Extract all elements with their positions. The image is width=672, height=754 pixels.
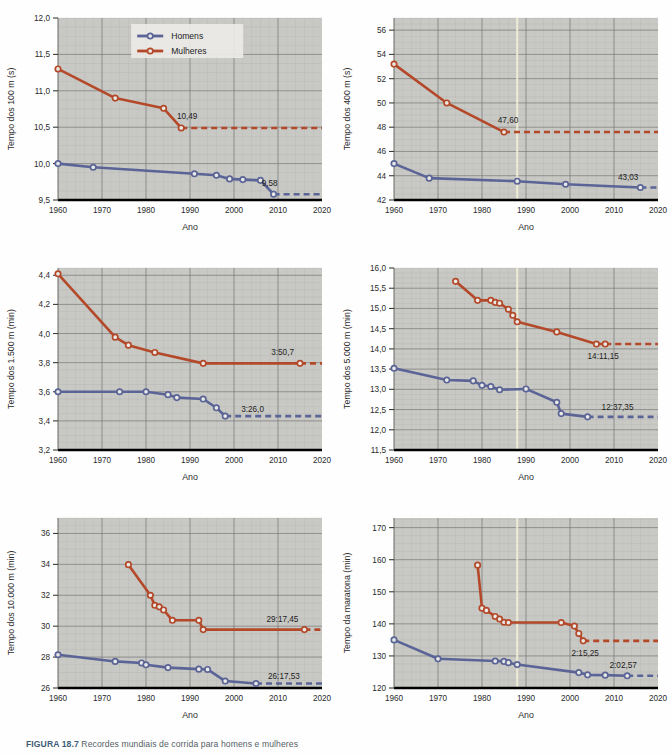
y-tick-label: 3,8 (39, 359, 51, 368)
data-point (179, 125, 184, 130)
data-point (391, 61, 396, 66)
data-point (143, 662, 148, 667)
data-point (161, 607, 166, 612)
record-annotation: 3:26,0 (241, 405, 264, 414)
data-point (196, 618, 201, 623)
data-point (170, 618, 175, 623)
x-tick-label: 1990 (181, 206, 200, 215)
data-point (196, 666, 201, 671)
record-annotation: 43,03 (618, 173, 639, 182)
legend-label: Homens (171, 31, 203, 41)
chart-1500m: 3,23,43,63,84,04,24,41960197019801990200… (0, 252, 336, 502)
record-annotation: 3:50,7 (271, 348, 294, 357)
y-tick-label: 11,5 (35, 50, 51, 59)
x-tick-label: 2000 (561, 206, 580, 215)
data-point (223, 678, 228, 683)
data-point (475, 562, 480, 567)
x-tick-label: 1980 (473, 694, 492, 703)
data-point (493, 658, 498, 663)
data-point (55, 389, 60, 394)
data-point (240, 177, 245, 182)
data-point (559, 620, 564, 625)
y-tick-label: 170 (372, 524, 386, 533)
data-point (126, 342, 131, 347)
data-point (91, 165, 96, 170)
data-point (126, 562, 131, 567)
x-tick-label: 1970 (429, 456, 448, 465)
data-point (161, 106, 166, 111)
y-tick-label: 56 (377, 26, 387, 35)
data-point (113, 95, 118, 100)
x-tick-label: 1990 (181, 694, 200, 703)
data-point (165, 665, 170, 670)
data-point (55, 66, 60, 71)
data-point (506, 660, 511, 665)
y-tick-label: 10,5 (34, 123, 50, 132)
y-tick-label: 14,5 (370, 325, 386, 334)
x-tick-label: 2000 (225, 694, 244, 703)
data-point (554, 329, 559, 334)
data-point (506, 307, 511, 312)
x-tick-label: 1990 (517, 456, 536, 465)
data-point (271, 191, 276, 196)
y-tick-label: 26 (41, 684, 51, 693)
x-tick-label: 2020 (313, 206, 332, 215)
chart-10000m: 2628303234361960197019801990200020102020… (0, 502, 336, 736)
data-point (201, 361, 206, 366)
chart-cell-marathon: 1201301401501601701960197019801990200020… (336, 502, 672, 736)
data-point (143, 389, 148, 394)
record-annotation: 10,49 (177, 112, 198, 121)
x-axis-label: Ano (518, 472, 534, 482)
y-tick-label: 46 (377, 147, 387, 156)
y-tick-label: 3,6 (39, 388, 51, 397)
data-point (427, 175, 432, 180)
y-tick-label: 13,5 (370, 365, 386, 374)
x-tick-labels: 1960197019801990200020102020 (49, 456, 332, 465)
figure-container: 9,510,010,511,011,512,019601970198019902… (0, 0, 672, 754)
y-tick-label: 130 (372, 652, 386, 661)
legend-label: Mulheres (171, 46, 206, 56)
y-tick-label: 4,2 (39, 300, 51, 309)
x-tick-label: 1980 (137, 206, 156, 215)
data-point (585, 414, 590, 419)
data-point (117, 389, 122, 394)
y-tick-label: 52 (377, 75, 387, 84)
x-tick-label: 1990 (181, 456, 200, 465)
x-tick-label: 1970 (93, 694, 112, 703)
y-axis-label: Tempo da maratona (min) (342, 553, 352, 654)
record-annotation: 2:15,25 (572, 649, 600, 658)
data-point (113, 334, 118, 339)
chart-cell-100m: 9,510,010,511,011,512,019601970198019902… (0, 0, 336, 252)
record-annotation: 12:37,35 (602, 403, 634, 412)
record-annotation: 2:02,57 (610, 661, 638, 670)
data-point (471, 378, 476, 383)
data-point (563, 182, 568, 187)
y-tick-label: 4,0 (39, 330, 51, 339)
chart-grid: 9,510,010,511,011,512,019601970198019902… (0, 0, 672, 736)
data-point (475, 298, 480, 303)
data-point (585, 672, 590, 677)
y-tick-label: 3,4 (39, 417, 51, 426)
y-tick-label: 13,0 (370, 385, 386, 394)
x-tick-label: 2020 (313, 694, 332, 703)
data-point (55, 271, 60, 276)
y-tick-label: 48 (377, 123, 387, 132)
data-point (192, 171, 197, 176)
data-point (201, 627, 206, 632)
x-tick-label: 2020 (649, 456, 668, 465)
data-point (506, 620, 511, 625)
data-point (576, 670, 581, 675)
y-tick-label: 160 (372, 556, 386, 565)
data-point (227, 176, 232, 181)
data-point (515, 319, 520, 324)
chart-5000m: 11,512,012,513,013,514,014,515,015,516,0… (336, 252, 672, 502)
x-axis-label: Ano (182, 710, 198, 720)
chart-marathon: 1201301401501601701960197019801990200020… (336, 502, 672, 736)
x-tick-label: 1970 (93, 456, 112, 465)
y-axis-label: Tempo dos 1.500 m (min) (6, 309, 16, 409)
data-point (55, 652, 60, 657)
data-point (453, 279, 458, 284)
y-tick-label: 11,5 (371, 446, 387, 455)
x-axis-label: Ano (182, 222, 198, 232)
x-tick-label: 1970 (429, 694, 448, 703)
